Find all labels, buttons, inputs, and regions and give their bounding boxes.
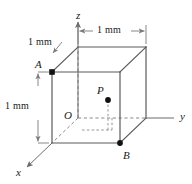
z-axis-label: z — [76, 10, 80, 21]
dimension-top-width-label: 1 mm — [97, 25, 121, 35]
dimension-depth-label: 1 mm — [28, 37, 52, 47]
dimension-height-label: 1 mm — [5, 101, 29, 111]
cube-diagram-figure: z y x A B P O 1 mm 1 mm 1 mm — [0, 0, 192, 184]
point-b-label: B — [123, 150, 130, 161]
dimension-depth-leader — [53, 42, 62, 53]
x-axis-line — [27, 143, 52, 167]
point-a-label: A — [35, 59, 42, 70]
point-p-projection-square — [82, 118, 112, 130]
point-b-marker — [117, 140, 123, 146]
y-axis-label: y — [180, 111, 185, 122]
point-p-marker — [105, 97, 111, 103]
origin-label: O — [64, 110, 72, 121]
cube-diagram-svg — [0, 0, 192, 184]
dimension-left-height — [38, 72, 49, 143]
point-p-label: P — [97, 85, 104, 96]
x-axis-label: x — [16, 167, 21, 178]
point-a-marker — [49, 69, 55, 75]
